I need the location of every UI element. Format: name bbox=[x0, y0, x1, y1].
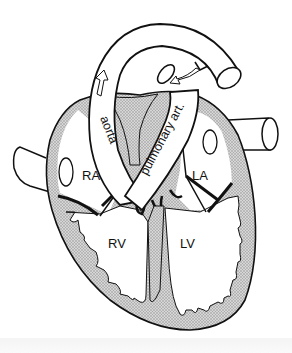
label-right-atrium: RA bbox=[82, 168, 100, 183]
bottom-band bbox=[0, 338, 292, 353]
label-left-atrium: LA bbox=[192, 168, 208, 183]
label-left-ventricle: LV bbox=[180, 236, 195, 251]
heart-diagram: RA LA RV LV aorta pulmonary art. bbox=[0, 0, 292, 353]
vena-cava-opening bbox=[59, 158, 73, 186]
pulmonary-vein-opening bbox=[203, 130, 217, 154]
label-right-ventricle: RV bbox=[108, 236, 126, 251]
vena-cava bbox=[14, 147, 50, 192]
